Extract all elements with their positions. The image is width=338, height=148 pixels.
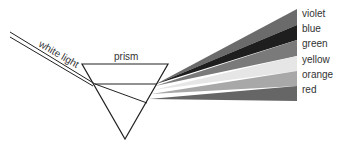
white-light-beam: [10, 32, 95, 86]
prism-diagram: white light prism: [0, 0, 338, 148]
prism-label: prism: [114, 51, 138, 62]
spectrum-fan: [149, 9, 297, 101]
legend-yellow: yellow: [302, 52, 333, 67]
prism-triangle: [82, 64, 168, 139]
legend-orange: orange: [302, 67, 333, 82]
legend-green: green: [302, 36, 333, 51]
legend-blue: blue: [302, 21, 333, 36]
legend-red: red: [302, 82, 333, 97]
spectrum-legend: violet blue green yellow orange red: [302, 6, 333, 97]
legend-violet: violet: [302, 6, 333, 21]
